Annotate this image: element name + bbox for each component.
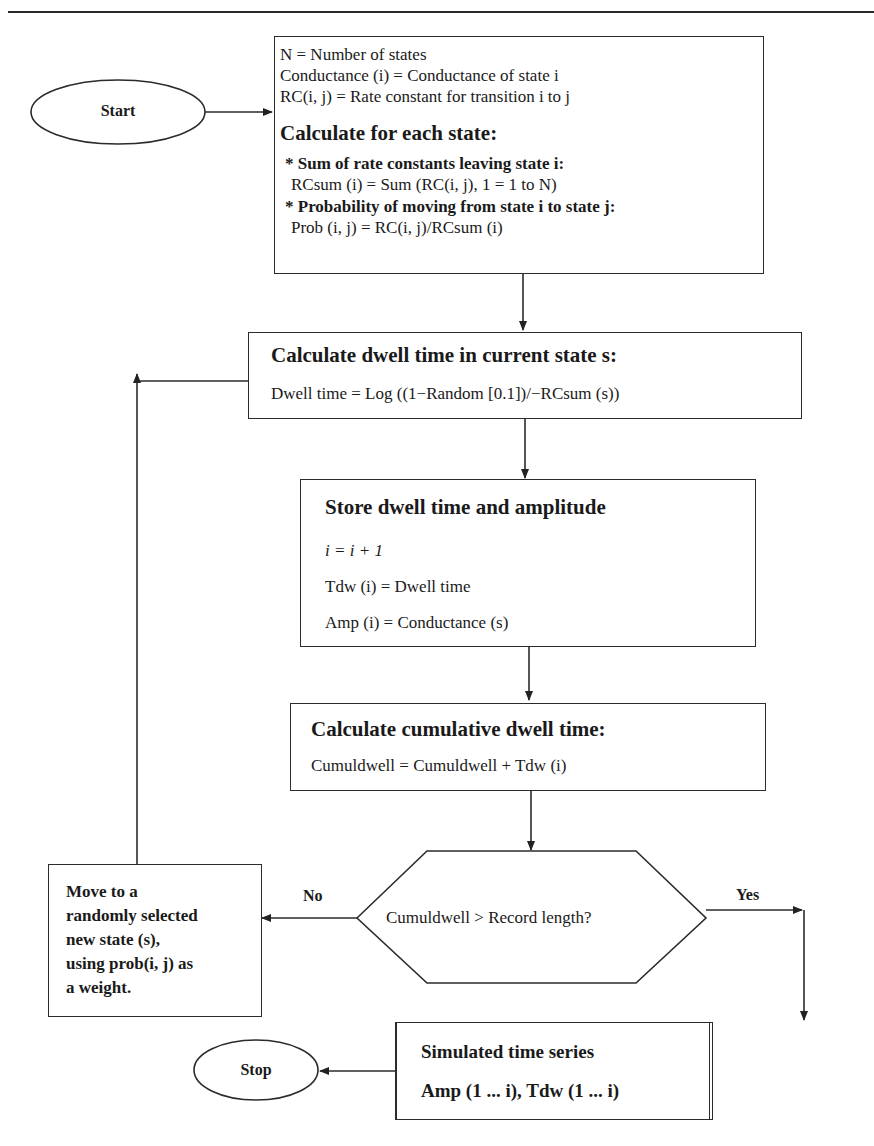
def-line-rate-constant: RC(i, j) = Rate constant for transition … xyxy=(280,87,570,107)
store-amp: Amp (i) = Conductance (s) xyxy=(325,613,508,633)
move-line-2: randomly selected xyxy=(66,906,198,926)
cumulative-formula: Cumuldwell = Cumuldwell + Tdw (i) xyxy=(311,756,566,776)
no-branch-label: No xyxy=(303,887,323,905)
stop-terminal: Stop xyxy=(216,1061,296,1079)
cumulative-heading: Calculate cumulative dwell time: xyxy=(311,717,606,741)
store-box: Store dwell time and amplitude i = i + 1… xyxy=(300,479,756,647)
dwell-time-box: Calculate dwell time in current state s:… xyxy=(248,332,802,419)
move-line-5: a weight. xyxy=(66,978,131,998)
yes-branch-label: Yes xyxy=(736,886,759,904)
dwell-formula: Dwell time = Log ((1−Random [0.1])/−RCsu… xyxy=(271,384,619,404)
dwell-heading: Calculate dwell time in current state s: xyxy=(271,343,617,367)
move-line-4: using prob(i, j) as xyxy=(66,954,193,974)
move-state-box: Move to a randomly selected new state (s… xyxy=(48,864,262,1017)
move-line-3: new state (s), xyxy=(66,930,160,950)
bullet-prob-formula: Prob (i, j) = RC(i, j)/RCsum (i) xyxy=(291,218,503,238)
simulated-series-box: Simulated time series Amp (1 ... i), Tdw… xyxy=(396,1022,710,1120)
store-heading: Store dwell time and amplitude xyxy=(325,495,606,519)
cumulative-box: Calculate cumulative dwell time: Cumuldw… xyxy=(290,703,766,791)
page-top-rule xyxy=(8,11,874,13)
bullet-prob-title: * Probability of moving from state i to … xyxy=(285,197,615,217)
output-heading: Simulated time series xyxy=(421,1040,594,1064)
calc-each-state-heading: Calculate for each state: xyxy=(280,121,497,145)
bullet-sum-formula: RCsum (i) = Sum (RC(i, j), 1 = 1 to N) xyxy=(291,175,557,195)
store-tdw: Tdw (i) = Dwell time xyxy=(325,577,471,597)
output-series: Amp (1 ... i), Tdw (1 ... i) xyxy=(421,1079,619,1103)
def-line-states: N = Number of states xyxy=(280,45,427,65)
definitions-box: N = Number of states Conductance (i) = C… xyxy=(274,36,764,274)
move-line-1: Move to a xyxy=(66,882,138,902)
store-increment: i = i + 1 xyxy=(325,541,383,561)
start-label: Start xyxy=(101,102,136,119)
start-terminal: Start xyxy=(78,102,158,120)
def-line-conductance: Conductance (i) = Conductance of state i xyxy=(280,66,559,86)
decision-question: Cumuldwell > Record length? xyxy=(386,908,592,928)
stop-label: Stop xyxy=(240,1061,271,1078)
bullet-sum-title: * Sum of rate constants leaving state i: xyxy=(285,154,564,174)
